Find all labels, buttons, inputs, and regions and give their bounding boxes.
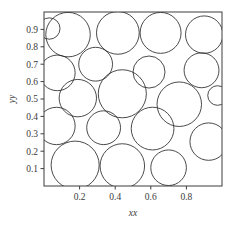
y-tick-label: 0.1: [26, 164, 38, 174]
y-tick-label: 0.4: [26, 112, 38, 122]
figure-root: 0.20.40.60.8 0.10.20.30.40.50.60.70.80.9…: [0, 0, 236, 231]
y-tick-label: 0.5: [26, 94, 38, 104]
y-tick-label: 0.2: [26, 147, 38, 157]
y-axis-label: yy: [7, 94, 17, 104]
y-tick-label: 0.6: [26, 77, 38, 87]
y-tick-label: 0.8: [26, 42, 38, 52]
x-tick-label: 0.4: [109, 192, 121, 202]
x-axis-label: xx: [128, 208, 138, 218]
x-tick-label: 0.6: [145, 192, 157, 202]
y-tick-label: 0.3: [26, 129, 38, 139]
y-tick-label: 0.9: [26, 25, 38, 35]
circle-packing-chart: 0.20.40.60.8 0.10.20.30.40.50.60.70.80.9…: [0, 0, 236, 231]
y-tick-layer: 0.10.20.30.40.50.60.70.80.9: [26, 25, 44, 174]
x-tick-label: 0.2: [74, 192, 86, 202]
y-tick-label: 0.7: [26, 60, 38, 70]
x-tick-label: 0.8: [180, 192, 192, 202]
